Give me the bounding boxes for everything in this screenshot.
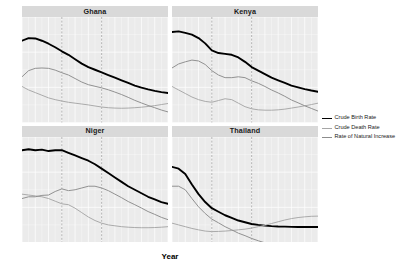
legend-label: Crude Birth Rate [335,115,377,121]
legend-swatch-icon [322,124,332,132]
facet-strip: Thailand [172,126,318,137]
legend-label: Rate of Natural Increase [335,134,396,140]
legend-item[interactable]: Crude Death Rate [322,124,410,132]
legend-swatch-icon [322,114,332,122]
chart-legend: Crude Birth RateCrude Death RateRate of … [322,114,410,143]
facet-strip: Kenya [172,6,318,17]
facet-panel [172,17,318,123]
facet-strip: Ghana [22,6,168,17]
facet-panel: 0204060196019701980199020002010202020302… [22,137,168,243]
facet-title: Kenya [234,8,256,15]
facet-niger: Niger02040601960197019801990200020102020… [22,126,168,243]
facet-panel: 0204060 [22,17,168,123]
facet-ghana: Ghana0204060 [22,6,168,123]
chart-root: Ghana0204060KenyaNiger020406019601970198… [0,0,411,269]
legend-label: Crude Death Rate [335,125,380,131]
x-axis-title: Year [22,252,318,261]
facet-panel: 1960197019801990200020102020203020402050… [172,137,318,243]
facet-strip: Niger [22,126,168,137]
legend-item[interactable]: Crude Birth Rate [322,114,410,122]
legend-swatch-icon [322,133,332,141]
facet-title: Niger [86,127,105,134]
facet-grid: Ghana0204060KenyaNiger020406019601970198… [22,6,318,242]
facet-title: Thailand [230,127,260,134]
facet-kenya: Kenya [172,6,318,123]
facet-thailand: Thailand19601970198019902000201020202030… [172,126,318,243]
facet-title: Ghana [84,8,107,15]
legend-item[interactable]: Rate of Natural Increase [322,133,410,141]
